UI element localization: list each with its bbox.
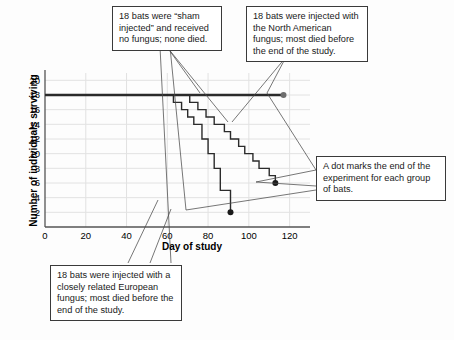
- callout-european-fungus: 18 bats were injected with a closely rel…: [50, 265, 182, 321]
- callout-control-group: 18 bats were “sham injected” and receive…: [112, 6, 222, 51]
- svg-text:40: 40: [121, 230, 132, 241]
- svg-text:80: 80: [203, 230, 214, 241]
- axis-lines: [45, 70, 310, 227]
- svg-text:0: 0: [42, 230, 47, 241]
- svg-text:20: 20: [80, 230, 91, 241]
- chart-figure: 020406080100120 2468101214161820 Number …: [0, 0, 454, 340]
- callout-north-american-fungus: 18 bats were injected with the North Ame…: [246, 6, 368, 62]
- x-axis-title: Day of study: [112, 241, 272, 252]
- svg-text:60: 60: [162, 230, 173, 241]
- svg-text:100: 100: [241, 230, 257, 241]
- svg-text:120: 120: [282, 230, 298, 241]
- callout-dot-marker: A dot marks the end of the experiment fo…: [316, 156, 446, 201]
- y-axis-title: Number of individuals surviving: [28, 66, 39, 236]
